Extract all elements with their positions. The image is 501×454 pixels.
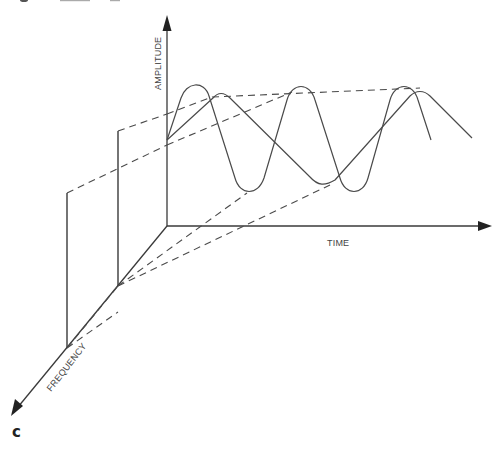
amplitude-axis [163,15,172,226]
panel-label: c [12,423,21,441]
projection-lines [67,88,420,348]
frequency-arrow-icon [11,399,23,416]
low-frequency-wave [167,92,472,185]
amplitude-arrow-icon [163,15,172,31]
frequency-time-amplitude-diagram: AMPLITUDE TIME FREQUENCY c [0,0,501,454]
time-arrow-icon [478,221,492,231]
time-axis-label: TIME [327,238,349,248]
cropped-caption-fragment [20,0,120,2]
high-frequency-wave [167,85,431,192]
frequency-axis [11,226,167,416]
time-axis [167,221,492,231]
amplitude-axis-label: AMPLITUDE [153,37,163,90]
